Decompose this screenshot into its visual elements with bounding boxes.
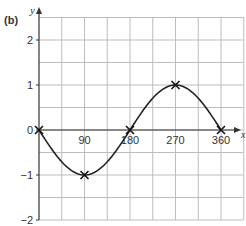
y-tick-label: −2: [20, 214, 33, 226]
sine-graph: 210−1−290180270360yx: [0, 0, 246, 226]
y-tick-label: 1: [27, 79, 33, 91]
y-tick-label: −1: [20, 169, 33, 181]
y-tick-label: 0: [27, 124, 33, 136]
x-tick-label: 360: [212, 134, 230, 146]
x-axis-arrow-icon: [234, 127, 241, 133]
y-axis-arrow-icon: [36, 7, 42, 14]
y-axis-label: y: [29, 4, 35, 16]
x-tick-label: 270: [166, 134, 184, 146]
x-axis-label: x: [240, 129, 246, 140]
y-tick-label: 2: [27, 34, 33, 46]
x-tick-label: 90: [78, 134, 90, 146]
